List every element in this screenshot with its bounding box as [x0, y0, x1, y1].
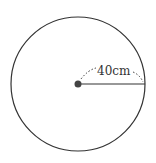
dimension-arc-right [133, 72, 143, 82]
center-point [75, 81, 82, 88]
dimension-arc-left [81, 68, 96, 79]
radius-label: 40cm [97, 64, 131, 78]
circle-diagram: 40cm [0, 0, 156, 163]
